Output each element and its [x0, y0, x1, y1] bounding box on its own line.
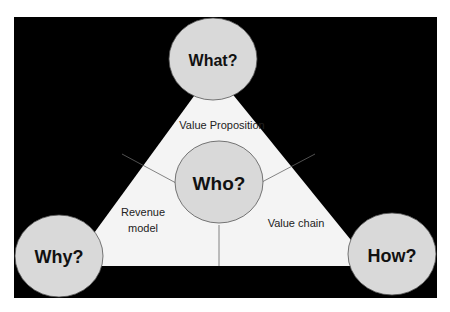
circle-how: How? [348, 213, 436, 295]
circle-what-label: What? [189, 52, 238, 69]
region-revenue-line1: Revenue [121, 206, 165, 218]
circle-why: Why? [15, 215, 103, 297]
region-value-chain: Value chain [268, 217, 325, 229]
business-model-triangle-diagram: What? Who? Why? How? Value Proposition R… [0, 0, 450, 312]
region-value-proposition: Value Proposition [179, 119, 264, 131]
circle-how-label: How? [368, 246, 417, 266]
region-revenue-line2: model [128, 222, 158, 234]
circle-what: What? [169, 18, 257, 100]
circle-who: Who? [175, 141, 263, 223]
circle-who-label: Who? [193, 173, 246, 194]
circle-why-label: Why? [35, 247, 84, 267]
